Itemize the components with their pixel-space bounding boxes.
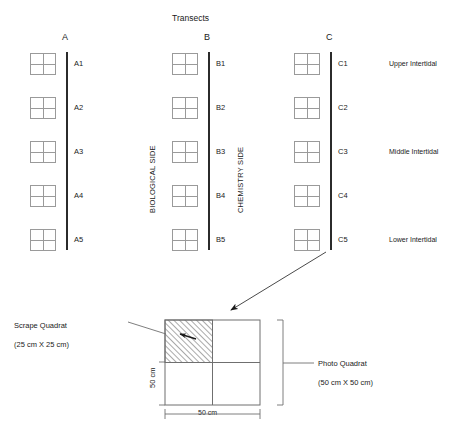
transect-sampling-diagram: Transects A A1 A2 A3 A4 A5 B B1 B2 B3 B4… (0, 0, 465, 426)
scrape-quadrat-leader-line (128, 322, 166, 334)
diagram-vector-overlay (0, 0, 465, 426)
detail-zoom-arrow (231, 252, 326, 310)
scrape-quadrat-cell (165, 320, 213, 363)
photo-quadrat-bracket (277, 320, 283, 405)
